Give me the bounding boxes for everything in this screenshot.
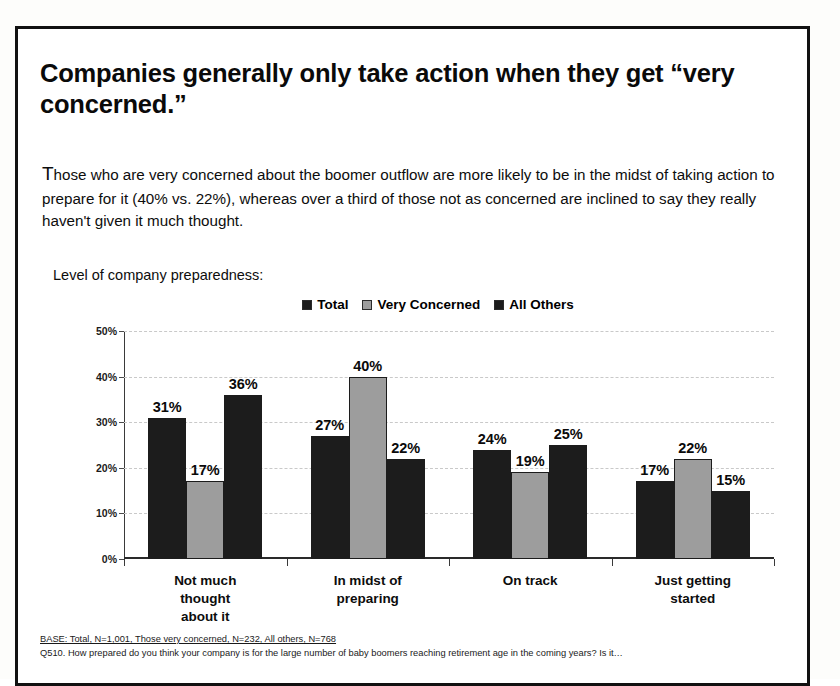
bar-column[interactable]: 22% (387, 331, 425, 559)
legend-swatch-icon (362, 300, 372, 310)
slide-body-paragraph: Those who are very concerned about the b… (42, 161, 794, 231)
bar-value-label: 15% (716, 472, 745, 488)
bar-column[interactable]: 25% (549, 331, 587, 559)
bar-rect[interactable] (311, 436, 349, 559)
bar-rect[interactable] (473, 450, 511, 559)
bar-rect[interactable] (636, 481, 674, 559)
bar-column[interactable]: 17% (636, 331, 674, 559)
bar-value-label: 40% (353, 358, 382, 374)
legend-entry: Very Concerned (362, 297, 480, 312)
bar-value-label: 17% (640, 462, 669, 478)
bar-group: 24%19%25%On track (449, 331, 612, 559)
bar-value-label: 25% (554, 426, 583, 442)
y-axis-tick-label: 0% (102, 553, 117, 565)
body-dropcap: T (42, 163, 54, 184)
bar-column[interactable]: 22% (674, 331, 712, 559)
bar-rect[interactable] (712, 491, 750, 559)
x-tick-mark (449, 559, 450, 566)
bar-rect[interactable] (511, 472, 549, 559)
slide-frame: Companies generally only take action whe… (15, 26, 810, 686)
legend-label: Very Concerned (377, 297, 480, 312)
footnote: BASE: Total, N=1,001, Those very concern… (40, 632, 780, 661)
x-axis-category-label: On track (503, 572, 558, 590)
bar-column[interactable]: 19% (511, 331, 549, 559)
x-tick-mark (124, 559, 125, 566)
bar-rect[interactable] (349, 377, 387, 559)
bar-column[interactable]: 31% (148, 331, 186, 559)
bar-column[interactable]: 24% (473, 331, 511, 559)
bar-groups: 31%17%36%Not much thought about it27%40%… (124, 331, 774, 559)
bar-column[interactable]: 40% (349, 331, 387, 559)
bar-group: 31%17%36%Not much thought about it (124, 331, 287, 559)
x-axis-category-label: Just getting started (652, 572, 733, 608)
bar-group: 17%22%15%Just getting started (612, 331, 775, 559)
bar-value-label: 22% (678, 440, 707, 456)
legend-entry: Total (302, 297, 348, 312)
x-axis-category-label: In midst of preparing (334, 572, 402, 608)
bar-column[interactable]: 17% (186, 331, 224, 559)
bar-value-label: 22% (391, 440, 420, 456)
bar-rect[interactable] (224, 395, 262, 559)
chart-legend: TotalVery ConcernedAll Others (118, 297, 758, 312)
y-axis-tick-label: 50% (96, 325, 117, 337)
bar-chart-plot-area: 50%40%30%20%10%0% 31%17%36%Not much thou… (124, 331, 774, 559)
bar-rect[interactable] (387, 459, 425, 559)
bar-value-label: 24% (478, 431, 507, 447)
footnote-question: Q510. How prepared do you think your com… (40, 646, 780, 660)
chart-caption: Level of company preparedness: (53, 267, 263, 283)
x-axis-category-label: Not much thought about it (165, 572, 246, 626)
footnote-base: BASE: Total, N=1,001, Those very concern… (40, 632, 780, 646)
bar-set: 31%17%36% (124, 331, 287, 559)
slide-title: Companies generally only take action whe… (40, 58, 760, 120)
y-axis-tick-label: 40% (96, 371, 117, 383)
bar-value-label: 17% (191, 462, 220, 478)
legend-label: Total (317, 297, 348, 312)
bar-set: 27%40%22% (287, 331, 450, 559)
legend-swatch-icon (302, 300, 312, 310)
y-axis-tick-label: 30% (96, 416, 117, 428)
bar-set: 17%22%15% (612, 331, 775, 559)
bar-rect[interactable] (148, 418, 186, 559)
bar-value-label: 31% (153, 399, 182, 415)
bar-set: 24%19%25% (449, 331, 612, 559)
legend-label: All Others (509, 297, 574, 312)
bar-column[interactable]: 27% (311, 331, 349, 559)
bar-rect[interactable] (186, 481, 224, 559)
y-axis-tick-label: 20% (96, 462, 117, 474)
x-tick-mark (287, 559, 288, 566)
bar-column[interactable]: 15% (712, 331, 750, 559)
x-tick-mark (774, 559, 775, 566)
bar-value-label: 19% (516, 453, 545, 469)
bar-value-label: 27% (315, 417, 344, 433)
bar-rect[interactable] (674, 459, 712, 559)
y-axis-tick-label: 10% (96, 507, 117, 519)
bar-group: 27%40%22%In midst of preparing (287, 331, 450, 559)
bar-value-label: 36% (229, 376, 258, 392)
legend-swatch-icon (494, 300, 504, 310)
bar-rect[interactable] (549, 445, 587, 559)
x-tick-mark (612, 559, 613, 566)
body-text: hose who are very concerned about the bo… (42, 166, 775, 229)
legend-entry: All Others (494, 297, 574, 312)
bar-column[interactable]: 36% (224, 331, 262, 559)
